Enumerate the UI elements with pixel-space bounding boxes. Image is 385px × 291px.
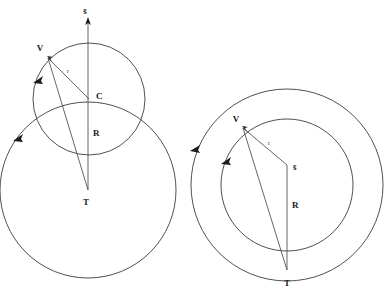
label-v-right: V — [233, 114, 240, 124]
label-t-right: T — [284, 278, 290, 288]
right-panel: V s̄ r R T — [190, 89, 383, 288]
label-c-left: C — [96, 91, 103, 101]
label-r-left: r — [67, 68, 69, 74]
inner-circle-direction-arrow — [221, 157, 231, 165]
small-circle-direction-arrow — [33, 76, 43, 84]
label-R-right: R — [292, 200, 299, 210]
geometry-figure: s̄ V C r R T V — [0, 0, 385, 291]
label-t-left: T — [83, 197, 89, 207]
segment-v-to-s — [243, 128, 287, 165]
diagram-stage: s̄ V C r R T V — [0, 0, 385, 291]
label-R-left: R — [93, 128, 100, 138]
label-s-bar-left: s̄ — [83, 6, 87, 16]
large-circle-direction-arrow — [13, 134, 23, 142]
label-v-left: V — [37, 43, 44, 53]
left-panel: s̄ V C r R T — [0, 6, 176, 278]
segment-v-to-t-right — [243, 128, 287, 270]
label-s-bar-right: s̄ — [293, 162, 297, 172]
outer-circle-direction-arrow — [190, 145, 200, 153]
label-r-right: r — [268, 140, 270, 146]
